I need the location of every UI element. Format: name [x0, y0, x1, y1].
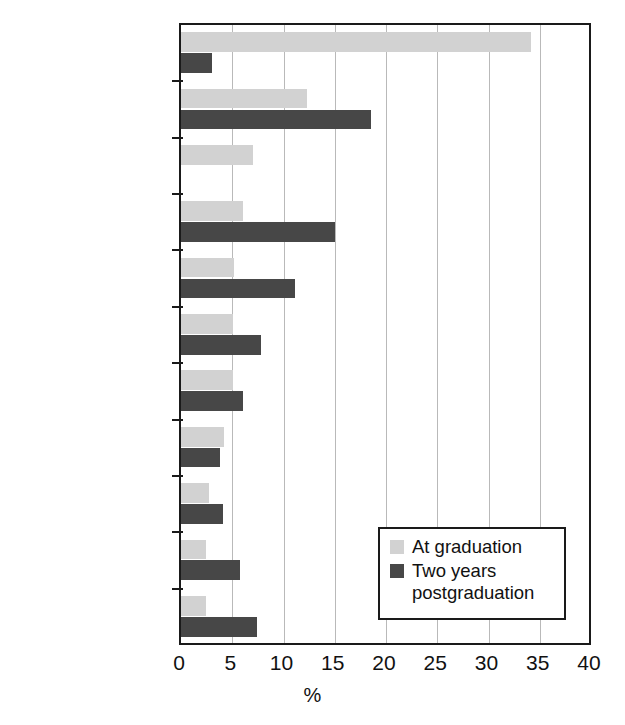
bar-at-graduation [181, 89, 307, 109]
y-axis-tick [172, 306, 183, 308]
bar-two-years-postgraduation [181, 448, 220, 468]
x-tick-label: 15 [310, 651, 356, 675]
y-axis-tick [172, 137, 183, 139]
bar-at-graduation [181, 596, 206, 616]
legend-label: Two years postgraduation [412, 560, 534, 604]
y-axis-tick [172, 475, 183, 477]
bar-group [181, 250, 589, 306]
bar-two-years-postgraduation [181, 279, 295, 299]
bar-two-years-postgraduation [181, 222, 335, 242]
bar-group [181, 307, 589, 363]
legend-swatch-icon [390, 564, 404, 578]
bar-two-years-postgraduation [181, 617, 257, 637]
legend-item: Two years postgraduation [390, 560, 558, 604]
bar-at-graduation [181, 483, 209, 503]
legend-swatch-icon [390, 540, 404, 554]
bar-group [181, 25, 589, 81]
bar-at-graduation [181, 370, 233, 390]
y-axis-tick [172, 531, 183, 533]
bar-two-years-postgraduation [181, 504, 223, 524]
legend-label: At graduation [412, 536, 522, 558]
bar-two-years-postgraduation [181, 53, 212, 73]
bar-group [181, 363, 589, 419]
y-axis-tick [172, 419, 183, 421]
bar-two-years-postgraduation [181, 560, 240, 580]
bar-at-graduation [181, 32, 531, 52]
bar-at-graduation [181, 145, 253, 165]
x-tick-label: 5 [207, 651, 253, 675]
legend-item: At graduation [390, 536, 558, 558]
bar-at-graduation [181, 314, 233, 334]
x-tick-label: 30 [464, 651, 510, 675]
bar-at-graduation [181, 427, 224, 447]
bar-group [181, 476, 589, 532]
bar-group [181, 194, 589, 250]
bar-chart: CorrectionsChild welfareYouth servicesMe… [0, 0, 625, 725]
bar-group [181, 420, 589, 476]
bar-group [181, 81, 589, 137]
x-tick-label: 0 [156, 651, 202, 675]
bar-two-years-postgraduation [181, 335, 261, 355]
x-tick-label: 40 [566, 651, 612, 675]
x-tick-label: 25 [412, 651, 458, 675]
bar-two-years-postgraduation [181, 110, 371, 130]
bar-at-graduation [181, 540, 206, 560]
bar-at-graduation [181, 258, 234, 278]
y-axis-tick [172, 249, 183, 251]
bar-group [181, 138, 589, 194]
x-tick-label: 20 [361, 651, 407, 675]
chart-legend: At graduationTwo years postgraduation [378, 527, 566, 620]
bar-at-graduation [181, 201, 243, 221]
y-axis-tick [172, 362, 183, 364]
y-axis-tick [172, 193, 183, 195]
y-axis-tick [172, 80, 183, 82]
bar-two-years-postgraduation [181, 391, 243, 411]
x-tick-label: 35 [515, 651, 561, 675]
x-axis-title: % [0, 684, 625, 707]
x-tick-label: 10 [259, 651, 305, 675]
y-axis-tick [172, 588, 183, 590]
